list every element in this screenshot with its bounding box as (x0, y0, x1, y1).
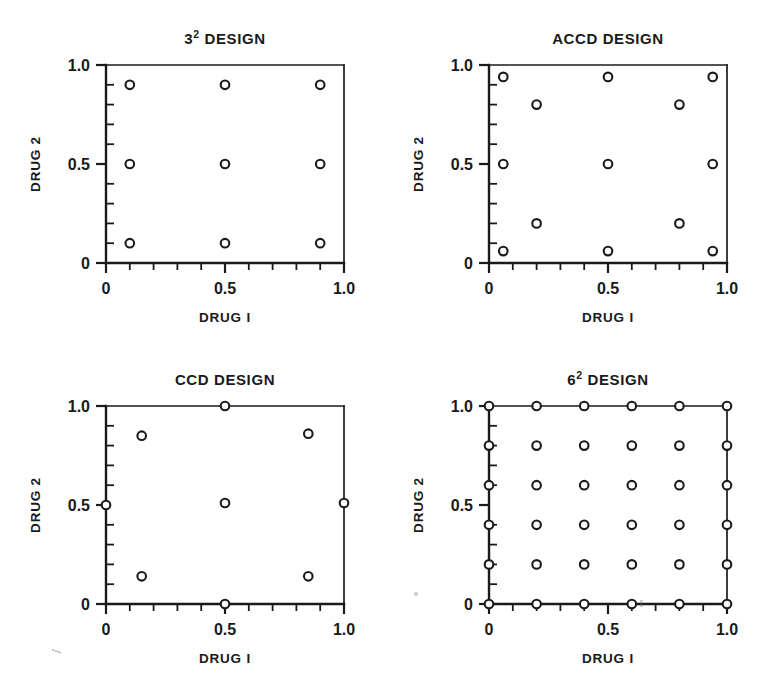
data-points (102, 402, 349, 609)
data-point (499, 73, 508, 82)
data-point (675, 441, 684, 450)
y-tick-label: 0 (464, 596, 473, 613)
data-point (675, 600, 684, 609)
data-point (580, 481, 589, 490)
data-point (221, 160, 230, 169)
data-point (580, 441, 589, 450)
data-point (137, 431, 146, 440)
y-axis-label: DRUG 2 (411, 477, 426, 533)
x-tick-label: 1.0 (716, 621, 738, 638)
tick-labels: 00.51.000.51.0 (451, 57, 738, 297)
data-point (723, 560, 732, 569)
data-point (532, 441, 541, 450)
panel-title-text: 32 DESIGN (184, 28, 265, 47)
y-tick-label: 1.0 (68, 57, 90, 74)
x-tick-label: 0.5 (597, 621, 619, 638)
plot-frame (489, 406, 727, 604)
x-axis-label: DRUG I (199, 651, 251, 666)
data-point (675, 481, 684, 490)
data-point (604, 160, 613, 169)
data-point (580, 560, 589, 569)
data-point (532, 402, 541, 411)
data-point (532, 100, 541, 109)
data-point (708, 73, 717, 82)
y-tick-label: 0.5 (68, 156, 90, 173)
data-point (532, 560, 541, 569)
y-tick-label: 0.5 (451, 497, 473, 514)
x-axis-label: DRUG I (199, 310, 251, 325)
data-point (628, 560, 637, 569)
data-point (628, 481, 637, 490)
y-tick-label: 0.5 (451, 156, 473, 173)
panel-6sq-content: 62 DESIGN00.51.000.51.0DRUG IDRUG 2 (411, 369, 738, 666)
data-point (723, 402, 732, 411)
data-point (485, 560, 494, 569)
data-point (532, 600, 541, 609)
x-tick-label: 0.5 (214, 280, 236, 297)
x-tick-label: 0 (102, 621, 111, 638)
data-point (485, 521, 494, 530)
data-point (532, 481, 541, 490)
data-point (485, 402, 494, 411)
data-point (221, 239, 230, 248)
panel-title: 62 DESIGN (567, 369, 648, 388)
panel-ccd-design: CCD DESIGN00.51.000.51.0DRUG IDRUG 2 (0, 341, 382, 681)
y-tick-label: 1.0 (451, 398, 473, 415)
data-point (532, 219, 541, 228)
data-point (316, 239, 325, 248)
data-point (675, 560, 684, 569)
panel-title: CCD DESIGN (175, 371, 275, 388)
panel-title-text: 62 DESIGN (567, 369, 648, 388)
x-tick-label: 1.0 (716, 280, 738, 297)
data-point (675, 100, 684, 109)
data-point (485, 441, 494, 450)
x-tick-label: 1.0 (333, 621, 355, 638)
panel-title-text: ACCD DESIGN (552, 30, 664, 47)
data-point (126, 239, 135, 248)
panel-3sq-design: 32 DESIGN00.51.000.51.0DRUG IDRUG 2 (0, 0, 382, 340)
panel-accd-content: ACCD DESIGN00.51.000.51.0DRUG IDRUG 2 (411, 30, 738, 325)
data-point (675, 521, 684, 530)
data-point (499, 160, 508, 169)
figure-root: 32 DESIGN00.51.000.51.0DRUG IDRUG 2 ACCD… (0, 0, 765, 681)
panel-accd-svg: ACCD DESIGN00.51.000.51.0DRUG IDRUG 2 (383, 0, 765, 340)
panel-title-text: CCD DESIGN (175, 371, 275, 388)
y-tick-label: 0 (464, 255, 473, 272)
data-point (126, 160, 135, 169)
data-point (221, 402, 230, 411)
data-point (485, 481, 494, 490)
x-axis-label: DRUG I (582, 310, 634, 325)
y-axis-label: DRUG 2 (28, 477, 43, 533)
y-tick-label: 0.5 (68, 497, 90, 514)
tick-labels: 00.51.000.51.0 (68, 57, 355, 297)
data-point (708, 247, 717, 256)
y-tick-label: 0 (81, 255, 90, 272)
tick-marks (479, 65, 727, 273)
data-point (304, 572, 313, 581)
panel-3sq-svg: 32 DESIGN00.51.000.51.0DRUG IDRUG 2 (0, 0, 382, 340)
data-point (499, 247, 508, 256)
panel-6sq-design: 62 DESIGN00.51.000.51.0DRUG IDRUG 2 (383, 341, 765, 681)
x-tick-label: 0 (485, 621, 494, 638)
data-point (532, 521, 541, 530)
data-point (316, 81, 325, 90)
data-point (628, 402, 637, 411)
data-point (126, 81, 135, 90)
data-point (137, 572, 146, 581)
y-tick-label: 1.0 (68, 398, 90, 415)
data-point (580, 402, 589, 411)
data-point (316, 160, 325, 169)
x-tick-label: 0.5 (597, 280, 619, 297)
data-point (580, 521, 589, 530)
data-point (485, 600, 494, 609)
panel-6sq-svg: 62 DESIGN00.51.000.51.0DRUG IDRUG 2 (383, 341, 765, 681)
y-tick-label: 1.0 (451, 57, 473, 74)
panel-title: ACCD DESIGN (552, 30, 664, 47)
panel-title: 32 DESIGN (184, 28, 265, 47)
data-points (126, 81, 325, 248)
y-tick-label: 0 (81, 596, 90, 613)
data-point (580, 600, 589, 609)
data-point (628, 521, 637, 530)
data-point (604, 73, 613, 82)
panel-ccd-content: CCD DESIGN00.51.000.51.0DRUG IDRUG 2 (28, 371, 355, 666)
